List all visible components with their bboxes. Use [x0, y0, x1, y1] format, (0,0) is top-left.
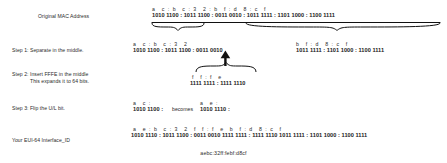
step1-left-half-binary: 1010 1100 : 1011 1100 : 0011 0010 — [133, 47, 223, 54]
eui64-derivation-diagram: Original MAC Address Step 1: Separate in… — [0, 0, 447, 163]
label-eui64-interface-id: Your EUI-64 Interface_ID — [12, 137, 70, 144]
insert-point-brace — [196, 63, 256, 73]
step1-right-half-binary: 1011 1111 : 1101 1000 : 1100 1111 — [296, 47, 384, 54]
label-original-mac-address: Original MAC Address — [38, 13, 89, 20]
label-step1-separate: Step 1: Separate in the middle. — [12, 47, 84, 54]
label-step2-line2: This expands it to 64 bits. — [12, 78, 89, 85]
fffe-binary: 1111 1111 : 1111 1110 — [190, 80, 246, 87]
right-half-brace — [246, 23, 440, 31]
step3-becomes-text: becomes — [172, 106, 193, 112]
label-step2-insert-fffe: Step 2: Insert FFFE in the middle This e… — [12, 71, 89, 85]
left-half-brace — [152, 23, 204, 31]
final-eui64-hex-string: aebc:32ff:febf:d8cf — [0, 150, 447, 156]
step3-before-binary: 1010 1100 : — [133, 106, 163, 113]
label-step2-line1: Step 2: Insert FFFE in the middle — [12, 71, 88, 77]
step3-after-binary: 1010 1110 : — [200, 106, 230, 113]
label-step3-flip-ul-bit: Step 3: Flip the U/L bit. — [12, 105, 65, 112]
eui64-result-binary: 1010 1110 : 1011 1100 : 0011 0010 1111 1… — [131, 132, 367, 139]
original-mac-binary: 1010 1100 : 1011 1100 : 0011 0010 : 1011… — [152, 12, 335, 19]
